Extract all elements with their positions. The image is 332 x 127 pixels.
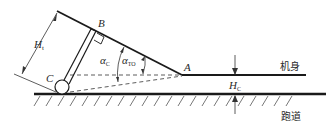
point-b-label: B bbox=[98, 17, 105, 29]
alpha-to-label: αTO bbox=[122, 54, 136, 67]
runway-label: 跑道 bbox=[281, 110, 301, 122]
gear-strut-right bbox=[69, 31, 96, 84]
alpha-to-arrow-top bbox=[141, 56, 145, 61]
ht-arrow-bottom bbox=[22, 66, 26, 74]
wheel-circle bbox=[55, 80, 69, 94]
gear-strut-left bbox=[63, 29, 91, 82]
point-c-label: C bbox=[46, 72, 54, 84]
dashed-ground-reference bbox=[70, 76, 182, 92]
point-a-label: A bbox=[183, 61, 191, 73]
hc-arrow-bottom bbox=[232, 95, 238, 102]
hc-arrow-top bbox=[232, 68, 238, 75]
hc-label: HC bbox=[228, 79, 241, 92]
alpha-c-arrow-top bbox=[120, 47, 124, 53]
tail-clearance-diagram: B A C Ht αC αTO HC 机身 跑道 bbox=[0, 0, 332, 127]
runway-hatching bbox=[34, 96, 292, 106]
ht-label: Ht bbox=[33, 38, 44, 52]
ht-arrow-top bbox=[53, 13, 57, 21]
fuselage-tilted-line bbox=[57, 11, 182, 75]
alpha-c-arrow-bottom bbox=[116, 77, 119, 82]
fuselage-label: 机身 bbox=[280, 60, 300, 72]
alpha-c-label: αC bbox=[100, 54, 110, 67]
